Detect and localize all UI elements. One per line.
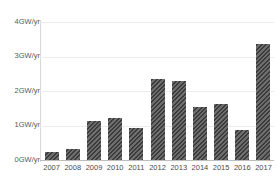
bar-slot <box>105 22 126 160</box>
x-tick-label-2015: 2015 <box>211 163 232 172</box>
x-tick-label-2013: 2013 <box>168 163 189 172</box>
y-tick-label-1: 1GW/yr <box>4 121 40 129</box>
x-tick-label-2016: 2016 <box>232 163 253 172</box>
x-tick-label-2011: 2011 <box>126 163 147 172</box>
bar-slot <box>83 22 104 160</box>
bar-slot <box>168 22 189 160</box>
x-axis-labels: 2007200820092010201120122013201420152016… <box>41 163 274 172</box>
x-tick-label-2017: 2017 <box>253 163 274 172</box>
bar-slot <box>126 22 147 160</box>
x-tick-label-2007: 2007 <box>41 163 62 172</box>
bar-slot <box>253 22 274 160</box>
clipped-title-band: · · · · · · <box>0 0 277 11</box>
y-tick-label-4: 4GW/yr <box>4 18 40 26</box>
bar-2011[interactable] <box>129 128 143 160</box>
bar-2007[interactable] <box>45 152 59 160</box>
x-tick-label-2012: 2012 <box>147 163 168 172</box>
bar-2012[interactable] <box>151 79 165 160</box>
bar-2017[interactable] <box>256 44 270 160</box>
bar-group <box>41 22 274 160</box>
y-tick-label-0: 0GW/yr <box>4 156 40 164</box>
bar-chart: · · · · · · 4GW/yr 3GW/yr 2GW/yr 1GW/yr … <box>0 0 277 189</box>
bar-2010[interactable] <box>108 118 122 160</box>
bar-slot <box>147 22 168 160</box>
y-tick-label-3: 3GW/yr <box>4 52 40 60</box>
y-tick-label-2: 2GW/yr <box>4 87 40 95</box>
bar-2015[interactable] <box>214 104 228 160</box>
x-tick-label-2008: 2008 <box>62 163 83 172</box>
clipped-title-ghost-text: · · · · · · <box>130 0 176 3</box>
bar-slot <box>62 22 83 160</box>
bar-2014[interactable] <box>193 107 207 160</box>
x-tick-label-2010: 2010 <box>105 163 126 172</box>
bar-2016[interactable] <box>235 130 249 160</box>
x-axis-line <box>40 160 274 161</box>
bar-slot <box>232 22 253 160</box>
bar-slot <box>41 22 62 160</box>
bar-slot <box>211 22 232 160</box>
x-tick-label-2014: 2014 <box>189 163 210 172</box>
x-tick-label-2009: 2009 <box>83 163 104 172</box>
bar-2013[interactable] <box>172 81 186 160</box>
bar-2008[interactable] <box>66 149 80 160</box>
bar-slot <box>189 22 210 160</box>
y-axis-labels: 4GW/yr 3GW/yr 2GW/yr 1GW/yr 0GW/yr <box>0 0 40 189</box>
bar-2009[interactable] <box>87 121 101 160</box>
